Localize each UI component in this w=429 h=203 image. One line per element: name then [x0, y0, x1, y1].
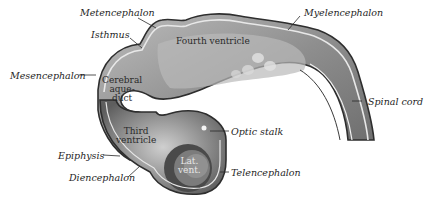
- label-cerebral-aqueduct: Cerebral aque- duct: [102, 76, 142, 103]
- label-myelencephalon: Myelencephalon: [304, 8, 383, 18]
- label-telencephalon: Telencephalon: [231, 168, 301, 178]
- label-spinal-cord: Spinal cord: [368, 97, 423, 107]
- label-diencephalon: Diencephalon: [69, 173, 135, 183]
- label-third-ventricle: Third ventricle: [116, 127, 156, 145]
- label-metencephalon: Metencephalon: [80, 8, 155, 18]
- label-epiphysis: Epiphysis: [58, 151, 104, 161]
- label-isthmus: Isthmus: [91, 30, 130, 40]
- label-mesencephalon: Mesencephalon: [10, 71, 86, 81]
- label-lateral-ventricle: Lat. vent.: [178, 157, 201, 175]
- label-optic-stalk: Optic stalk: [231, 127, 283, 137]
- brain-vesicles-diagram: [0, 0, 429, 203]
- label-fourth-ventricle: Fourth ventricle: [176, 37, 250, 46]
